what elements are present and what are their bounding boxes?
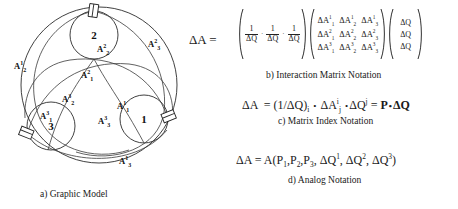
matrix-right-paren bbox=[380, 8, 387, 60]
row-vector-sep-1: · bbox=[259, 30, 265, 38]
eq-c-lhs: ΔA bbox=[242, 98, 258, 112]
arc-label-A2-1: A21 bbox=[81, 69, 93, 82]
eq-c-term1: (1/ΔQ)i bbox=[274, 98, 310, 112]
eq-d-p2: P2 bbox=[290, 153, 300, 167]
eq-d-close: ) bbox=[392, 153, 396, 167]
column-vector-cell-3: ΔQ bbox=[400, 42, 411, 51]
node-label-1: 1 bbox=[141, 113, 147, 125]
row-vector-right-paren bbox=[301, 8, 308, 60]
matrix-cell-2-3: ΔA23 bbox=[361, 28, 378, 41]
interaction-arc-1 bbox=[34, 11, 129, 154]
matrix-cell-1-1: ΔA11 bbox=[317, 14, 334, 27]
row-vector-entry-1: 1 ΔQ bbox=[245, 25, 258, 43]
eq-b-lhs: ΔA = bbox=[189, 32, 217, 48]
eq-d-q1: ΔQ1 bbox=[320, 153, 340, 167]
eq-c-result-p: P bbox=[380, 98, 387, 112]
caption-interaction-matrix: b) Interaction Matrix Notation bbox=[266, 70, 381, 80]
eq-d-equals: = bbox=[255, 153, 262, 167]
caption-matrix-index: c) Matrix Index Notation bbox=[278, 116, 373, 126]
caption-analog: d) Analog Notation bbox=[288, 175, 361, 185]
port-node-3 bbox=[19, 126, 34, 139]
row-vector-entry-3: 1 ΔQ bbox=[288, 25, 301, 43]
eq-c-term3: ΔQj bbox=[349, 98, 367, 112]
column-vector-left-paren bbox=[387, 8, 394, 60]
panel-equations: ΔA = 1 ΔQ · 1 ΔQ · 1 bbox=[229, 0, 458, 209]
matrix-cell-3-3: ΔA33 bbox=[361, 41, 378, 54]
eq-d-q3: ΔQ3 bbox=[372, 153, 392, 167]
matrix-cell-2-2: ΔA22 bbox=[339, 28, 356, 41]
eq-c-dot-1: • bbox=[312, 101, 317, 111]
arc-label-A3-1: A31 bbox=[40, 110, 52, 123]
matrix-cell-1-2: ΔA12 bbox=[339, 14, 356, 27]
matrix-cell-3-1: ΔA31 bbox=[317, 41, 334, 54]
eq-d-fn: A( bbox=[264, 153, 277, 167]
eq-c-result-q: ΔQ bbox=[393, 98, 410, 112]
row-vector-sep-2: · bbox=[280, 30, 286, 38]
caption-graphic-model: a) Graphic Model bbox=[40, 189, 108, 199]
arc-label-A3-2: A32 bbox=[62, 93, 74, 106]
eq-c-body: ΔA = (1/ΔQ)i • ΔAij •ΔQj = P•ΔQ bbox=[242, 97, 410, 114]
row-vector-left-paren bbox=[237, 8, 244, 60]
interaction-matrix: ΔA11 ΔA12 ΔA13 ΔA21 ΔA22 ΔA23 ΔA31 ΔA32 … bbox=[315, 14, 380, 54]
eq-c-equals: = bbox=[264, 98, 271, 112]
row-vector-entry-2: 1 ΔQ bbox=[266, 25, 279, 43]
arc-label-A3-3: A33 bbox=[98, 115, 110, 128]
arc-label-A1-2: A12 bbox=[14, 60, 26, 73]
eq-d-p3: P3 bbox=[303, 153, 313, 167]
matrix-cell-3-2: ΔA32 bbox=[339, 41, 356, 54]
port-node-1 bbox=[161, 110, 176, 123]
figure-root: 2 1 3 A22 A21 A23 A32 A31 A33 A11 A12 A1… bbox=[0, 0, 458, 209]
graphic-model-diagram: 2 1 3 bbox=[4, 2, 214, 180]
node-label-2: 2 bbox=[91, 29, 97, 41]
column-vector-cell-1: ΔQ bbox=[400, 18, 411, 27]
column-vector: ΔQ ΔQ ΔQ bbox=[394, 18, 417, 51]
eq-d-p1: P1 bbox=[277, 153, 287, 167]
matrix-left-paren bbox=[308, 8, 315, 60]
eq-d-body: ΔA = A(P1,P2,P3, ΔQ1, ΔQ2, ΔQ3) bbox=[236, 152, 396, 169]
eq-d-c5: , bbox=[366, 153, 369, 167]
port-node-2 bbox=[88, 4, 99, 18]
eq-d-c4: , bbox=[340, 153, 343, 167]
column-vector-cell-2: ΔQ bbox=[400, 30, 411, 39]
outer-boundary-circle bbox=[21, 7, 177, 163]
matrix-cell-1-3: ΔA13 bbox=[361, 14, 378, 27]
eq-b-body: 1 ΔQ · 1 ΔQ · 1 ΔQ bbox=[237, 8, 424, 60]
eq-d-q2: ΔQ2 bbox=[346, 153, 366, 167]
interaction-arc-2 bbox=[76, 11, 165, 156]
arc-label-A1-1: A11 bbox=[117, 100, 129, 113]
arc-label-A1-3: A13 bbox=[119, 155, 131, 168]
arc-label-A2-3: A23 bbox=[148, 38, 160, 51]
column-vector-right-paren bbox=[417, 8, 424, 60]
eq-d-lhs: ΔA bbox=[236, 153, 252, 167]
eq-c-term2: ΔAij bbox=[320, 98, 341, 112]
eq-c-equals-2: = bbox=[371, 98, 378, 112]
arc-label-A2-2: A22 bbox=[97, 43, 109, 56]
matrix-cell-2-1: ΔA21 bbox=[317, 28, 334, 41]
eq-d-c3: , bbox=[314, 153, 317, 167]
